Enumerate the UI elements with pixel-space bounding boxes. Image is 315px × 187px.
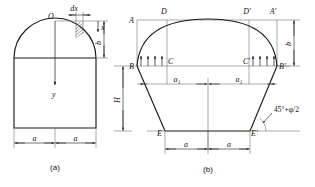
- figure-svg: y O dx x: [0, 0, 315, 187]
- panel-a-caption: (a): [50, 163, 60, 172]
- panel-b-label-Bprime: B': [279, 62, 286, 71]
- panel-b-label-Dprime: D': [242, 7, 251, 16]
- panel-b-label-B: B: [129, 62, 134, 71]
- panel-b-label-Eprime: E': [250, 129, 258, 138]
- panel-a-group: y O dx x: [14, 4, 108, 172]
- panel-b-angle-label: 45°+φ/2: [274, 105, 299, 114]
- panel-a-dx-label: dx: [70, 4, 78, 13]
- panel-a-a-right-label: a: [74, 134, 78, 143]
- panel-b-a-right-label: a: [227, 140, 231, 149]
- panel-b-load-arrows-right: [253, 56, 274, 66]
- panel-a-origin-label: O: [48, 12, 54, 21]
- panel-b-label-D: D: [160, 7, 167, 16]
- panel-b-angle-leader: [263, 113, 272, 123]
- panel-b-slip-plane-left: [137, 66, 165, 131]
- panel-b-label-Cprime: C': [243, 57, 250, 66]
- panel-b-angle-arc: [260, 118, 267, 131]
- panel-b-label-A: A: [128, 16, 134, 25]
- panel-b-a1-left-label: a₁: [174, 75, 181, 84]
- panel-b-label-C: C: [168, 57, 174, 66]
- panel-a-b-label: b: [94, 41, 103, 45]
- panel-b-label-Aprime: A': [269, 7, 277, 16]
- h-label: H: [113, 96, 122, 104]
- panel-b-load-arrows-left: [141, 56, 162, 66]
- panel-b-caption: (b): [203, 165, 213, 174]
- panel-a-y-label: y: [51, 90, 56, 99]
- panel-b-b-label: b: [284, 42, 293, 46]
- panel-b-group: A D D' A' B C C' B' E E' a₁ a₁ b: [128, 7, 300, 174]
- panel-a-a-left-label: a: [33, 134, 37, 143]
- panel-b-arch-curve: [137, 19, 277, 66]
- h-dimension-group: H: [113, 66, 132, 131]
- panel-b-label-E: E: [156, 129, 162, 138]
- engineering-figure: y O dx x: [0, 0, 315, 187]
- panel-b-a1-right-label: a₁: [236, 75, 243, 84]
- panel-b-a-left-label: a: [184, 140, 188, 149]
- panel-b-slip-plane-right: [250, 66, 277, 131]
